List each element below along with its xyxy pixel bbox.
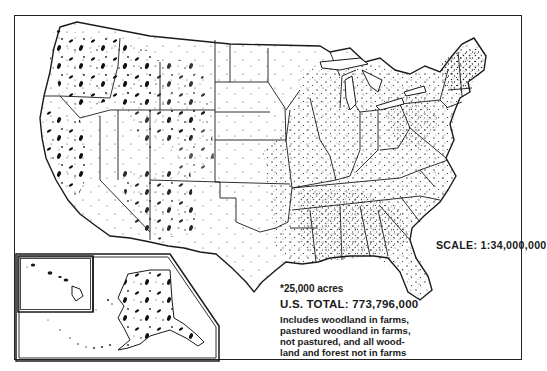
- note-line: Includes woodland in farms,: [280, 314, 411, 325]
- note-line: pastured woodland in farms,: [280, 325, 411, 336]
- dot-legend: *25,000 acres: [280, 283, 343, 294]
- map-scale: SCALE: 1:34,000,000: [436, 239, 547, 251]
- definition-note: Includes woodland in farms, pastured woo…: [280, 314, 411, 358]
- alaska: [47, 270, 204, 350]
- note-line: not pastured, and all wood-: [280, 336, 411, 347]
- us-total: U.S. TOTAL: 773,796,000: [280, 298, 418, 310]
- note-line: land and forest not in farms: [280, 347, 411, 358]
- inset-frame: [16, 254, 219, 361]
- hawaii-islands: [26, 263, 83, 301]
